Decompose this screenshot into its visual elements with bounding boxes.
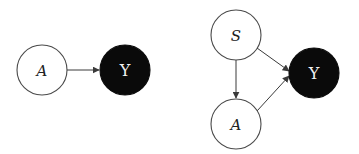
causal-diagrams-canvas: A Y S A Y xyxy=(0,0,359,154)
node-a-label: A xyxy=(35,62,48,80)
node-s: S xyxy=(211,10,261,60)
node-a: A xyxy=(17,45,67,95)
diagram-simple: A Y xyxy=(17,45,150,95)
node-y-label: Y xyxy=(308,64,320,83)
node-y: Y xyxy=(100,45,150,95)
node-a-label: A xyxy=(229,116,242,134)
node-a: A xyxy=(211,99,261,149)
node-y-label: Y xyxy=(119,61,131,80)
edge-a-to-y xyxy=(257,76,289,111)
edge-s-to-y xyxy=(257,48,289,71)
diagram-confounded: S A Y xyxy=(211,10,339,149)
node-y: Y xyxy=(289,48,339,98)
node-s-label: S xyxy=(231,27,241,45)
